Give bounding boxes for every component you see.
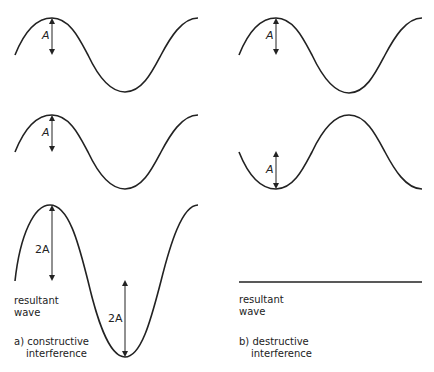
amplitude-label: A (266, 29, 274, 42)
caption-b: b) destructiveinterference (239, 336, 312, 360)
amplitude-label: A (42, 29, 50, 42)
wave-b2 (239, 115, 422, 189)
resultant-label: resultantwave (14, 295, 59, 319)
amplitude-label: A (42, 126, 50, 139)
amplitude-label: A (266, 163, 274, 176)
amplitude-label: 2A (35, 243, 50, 256)
caption-a: a) constructiveinterference (14, 336, 89, 360)
amplitude-label: 2A (108, 312, 123, 325)
wave-a-result (15, 205, 198, 357)
interference-diagram (0, 0, 434, 372)
resultant-label: resultantwave (239, 294, 284, 318)
